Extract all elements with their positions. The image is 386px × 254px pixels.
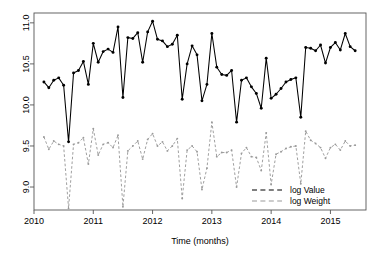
y-tick-label-3: 10.5 (21, 55, 31, 73)
legend-label-0: log Value (290, 185, 325, 195)
x-tick-label-5: 2015 (320, 216, 340, 226)
y-tick-label-4: 11.0 (21, 14, 31, 31)
x-tick-label-1: 2011 (84, 216, 103, 226)
x-tick-label-3: 2013 (202, 216, 222, 226)
y-tick-label-0: 9.0 (21, 181, 31, 194)
legend-label-1: log Weight (290, 196, 331, 206)
line-chart: 201020112012201320142015 9.09.510.010.51… (0, 0, 386, 254)
x-axis-title: Time (months) (171, 236, 229, 246)
x-tick-label-2: 2012 (143, 216, 163, 226)
y-tick-label-2: 10.0 (21, 96, 31, 114)
y-tick-label-1: 9.5 (21, 140, 31, 153)
x-tick-label-0: 2010 (24, 216, 44, 226)
chart-figure: 201020112012201320142015 9.09.510.010.51… (0, 0, 386, 254)
x-tick-label-4: 2014 (261, 216, 281, 226)
